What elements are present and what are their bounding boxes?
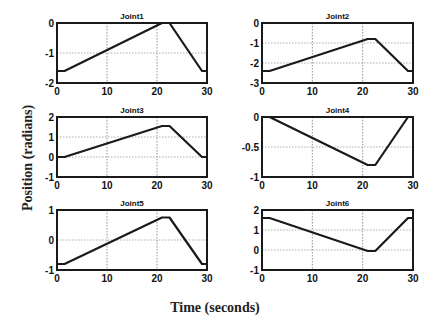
x-tick-label: 20 [357,273,369,284]
y-tick-label: -1 [45,172,54,183]
x-tick-label: 20 [151,180,163,191]
y-tick-label: 2 [253,205,259,216]
trajectory-line [57,218,207,265]
x-tick-label: 0 [259,273,265,284]
subplot-joint3: Joint30102030210-1 [45,106,213,191]
x-tick-label: 20 [151,273,163,284]
y-tick-label: 2 [48,112,54,123]
y-tick-label: -0.5 [242,142,260,153]
x-tick-label: 10 [307,86,319,97]
x-tick-label: 30 [407,86,419,97]
y-tick-label: 0 [253,112,259,123]
trajectory-line [57,23,207,71]
x-tick-label: 20 [151,86,163,97]
x-tick-label: 10 [307,180,319,191]
y-tick-label: -1 [45,265,54,276]
subplot-joint5: Joint5010203010-1 [45,199,213,284]
x-tick-label: 0 [54,180,60,191]
trajectory-line [262,117,413,165]
y-tick-label: -2 [45,78,54,89]
subplot-title: Joint5 [120,199,144,208]
subplot-title: Joint1 [120,12,144,21]
subplot-title: Joint6 [326,199,350,208]
y-tick-label: 0 [253,245,259,256]
y-tick-label: 0 [48,152,54,163]
x-tick-label: 0 [259,180,265,191]
x-tick-label: 10 [307,273,319,284]
x-tick-label: 20 [357,86,369,97]
subplot-title: Joint2 [326,12,350,21]
x-tick-label: 10 [101,86,113,97]
x-tick-label: 30 [407,273,419,284]
y-axis-label: Position (radians) [20,98,36,218]
x-tick-label: 0 [54,86,60,97]
x-tick-label: 20 [357,180,369,191]
x-axis-label: Time (seconds) [0,300,430,316]
y-tick-label: 0 [253,18,259,29]
subplot-title: Joint3 [120,106,144,115]
subplot-joint1: Joint101020300-1-2 [45,12,213,97]
x-tick-label: 0 [259,86,265,97]
y-tick-label: 1 [48,205,54,216]
x-tick-label: 30 [201,180,213,191]
axes-frame [57,117,207,177]
y-tick-label: -1 [250,172,259,183]
subplot-joint6: Joint60102030210-1 [250,199,419,284]
x-tick-label: 0 [54,273,60,284]
subplot-joint4: Joint401020300-0.5-1 [242,106,419,191]
y-tick-label: 0 [48,235,54,246]
y-tick-label: 0 [48,18,54,29]
y-tick-label: 1 [253,225,259,236]
trajectory-line [57,126,207,157]
x-tick-label: 10 [101,180,113,191]
subplot-joint2: Joint201020300-1-2-3 [250,12,419,97]
y-tick-label: 1 [48,132,54,143]
x-tick-label: 30 [201,86,213,97]
y-tick-label: -1 [45,48,54,59]
y-tick-label: -2 [250,58,259,69]
trajectory-line [262,39,413,71]
y-tick-label: -1 [250,265,259,276]
x-tick-label: 30 [201,273,213,284]
x-tick-label: 30 [407,180,419,191]
joint-position-figure: Joint101020300-1-2Joint201020300-1-2-3Jo… [0,0,430,325]
x-tick-label: 10 [101,273,113,284]
y-tick-label: -3 [250,78,259,89]
trajectory-line [262,218,413,251]
y-tick-label: -1 [250,38,259,49]
subplot-title: Joint4 [326,106,350,115]
